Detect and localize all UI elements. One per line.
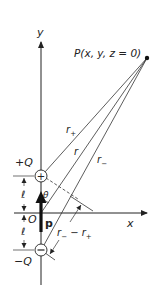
dipole-moment-label: p	[45, 217, 53, 230]
r-minus-label: r−	[97, 154, 107, 168]
y-axis-label: y	[36, 26, 44, 39]
r-line	[41, 58, 147, 213]
positive-charge-label: +Q	[15, 156, 33, 169]
dimension-arrow-down	[50, 240, 59, 254]
r-difference-label: r− − r+	[57, 227, 92, 241]
dipole-diagram: y x P(x, y, z = 0) r+ r r− r− − r+ θ p O…	[0, 0, 161, 301]
r-plus-line	[45, 58, 147, 172]
half-sep-lower-label: ℓ	[21, 226, 25, 237]
negative-charge-label: −Q	[14, 255, 32, 268]
dimension-tick-top	[70, 196, 93, 211]
r-plus-label: r+	[66, 124, 76, 138]
positive-charge-symbol: +	[37, 171, 45, 182]
half-sep-upper-label: ℓ	[21, 189, 25, 200]
projection-dashed-line	[46, 178, 78, 199]
point-p-label: P(x, y, z = 0)	[74, 47, 141, 59]
r-label: r	[74, 146, 79, 157]
origin-label: O	[28, 213, 37, 226]
x-axis-label: x	[126, 217, 134, 230]
point-p	[145, 56, 149, 60]
